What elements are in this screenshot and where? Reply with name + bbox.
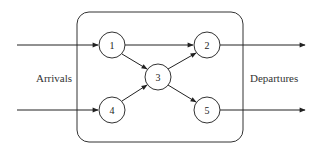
node-1-label: 1 <box>110 40 115 51</box>
node-5: 5 <box>194 97 220 123</box>
edge-3-to-5 <box>168 85 196 102</box>
node-3: 3 <box>145 64 171 90</box>
edge-1-to-3 <box>122 54 147 69</box>
departures-label: Departures <box>250 72 298 84</box>
node-1: 1 <box>99 32 125 58</box>
node-5-label: 5 <box>205 105 210 116</box>
node-4-label: 4 <box>110 105 115 116</box>
edge-3-to-2 <box>168 53 196 69</box>
network-diagram: 1 2 3 4 5 Arrivals Departures <box>0 0 321 152</box>
node-4: 4 <box>99 97 125 123</box>
node-2-label: 2 <box>205 40 210 51</box>
node-3-label: 3 <box>156 72 161 83</box>
edge-4-to-3 <box>122 85 147 101</box>
node-2: 2 <box>194 32 220 58</box>
arrivals-label: Arrivals <box>36 72 72 84</box>
